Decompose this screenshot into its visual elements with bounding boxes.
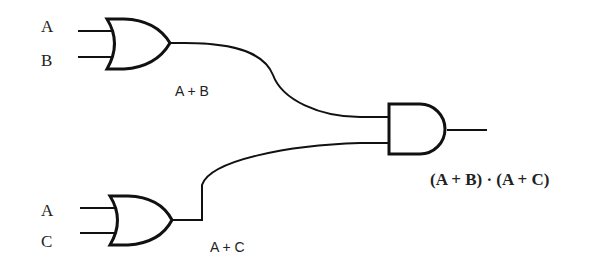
logic-circuit-diagram: A B A + B A C A + C (A + B) · (A + C) bbox=[0, 0, 608, 272]
and-gate bbox=[389, 104, 445, 154]
label-or1-input-a: A bbox=[41, 17, 54, 36]
wire-or1-to-and bbox=[170, 43, 389, 117]
label-or2-input-c: C bbox=[41, 232, 52, 251]
or-gate-bottom bbox=[110, 196, 172, 245]
or-gate-top bbox=[107, 19, 170, 69]
label-or1-input-b: B bbox=[41, 51, 52, 70]
label-or2-input-a: A bbox=[41, 201, 54, 220]
label-or2-output: A + C bbox=[210, 239, 245, 255]
wire-or2-to-and bbox=[172, 143, 389, 220]
label-final-output: (A + B) · (A + C) bbox=[430, 170, 549, 189]
label-or1-output: A + B bbox=[175, 83, 209, 99]
